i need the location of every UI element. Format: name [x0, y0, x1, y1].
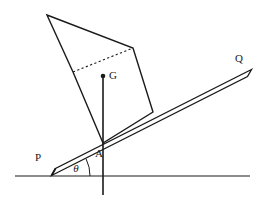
label-point-g: G [109, 69, 117, 81]
physics-diagram-canvas: P Q A G θ [0, 0, 267, 201]
block-outline [47, 15, 153, 143]
block-hidden-edge [73, 48, 133, 72]
label-point-p: P [35, 151, 41, 163]
label-point-a: A [95, 147, 103, 159]
diagram-svg: P Q A G θ [0, 0, 267, 201]
angle-arc-theta [86, 159, 90, 176]
label-angle-theta: θ [73, 162, 79, 174]
rod-PQ [52, 70, 252, 176]
center-of-gravity-dot [101, 74, 106, 79]
label-point-q: Q [235, 52, 243, 64]
